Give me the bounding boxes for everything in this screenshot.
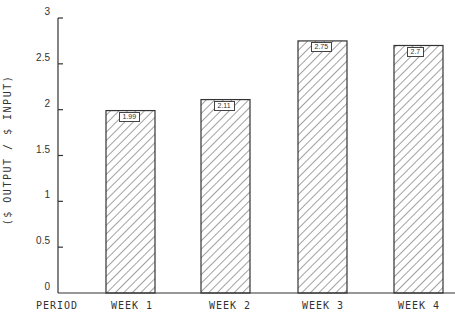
x-axis-title: PERIOD: [36, 300, 78, 311]
y-tick-label: 2: [20, 98, 50, 109]
y-tick-label: 2.5: [20, 52, 50, 63]
y-tick-label: 1: [20, 189, 50, 200]
bar-value-label: 2.7: [407, 47, 425, 57]
y-axis-title: ($ OUTPUT / $ INPUT): [2, 75, 13, 225]
x-category-label: WEEK 2: [209, 300, 251, 311]
bar: [298, 41, 347, 293]
bar-value-label: 2.75: [311, 42, 333, 52]
y-tick-label: 3: [20, 6, 50, 17]
bar-value-label: 2.11: [214, 101, 235, 111]
bars: [106, 41, 443, 293]
x-category-label: WEEK 4: [398, 300, 440, 311]
y-tick-label: 1.5: [20, 144, 50, 155]
x-category-label: WEEK 3: [302, 300, 344, 311]
bar-chart: [0, 0, 455, 326]
x-category-label: WEEK 1: [111, 300, 153, 311]
y-tick-label: 0: [20, 281, 50, 292]
bar: [394, 46, 443, 294]
bar-value-label: 1.99: [119, 112, 141, 122]
bar: [201, 100, 250, 293]
y-tick-label: 0.5: [20, 235, 50, 246]
bar: [106, 111, 155, 293]
